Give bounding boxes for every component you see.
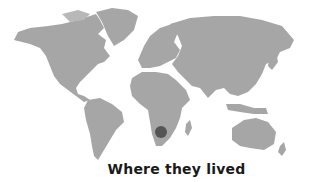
map-caption: Where they lived	[0, 161, 313, 177]
south-america	[84, 98, 124, 160]
new-zealand	[278, 142, 286, 156]
location-marker	[155, 126, 167, 138]
australia	[232, 118, 276, 150]
north-america	[14, 14, 110, 102]
madagascar	[185, 120, 192, 136]
indonesia	[226, 104, 268, 114]
world-map	[0, 0, 313, 160]
europe	[138, 24, 180, 68]
